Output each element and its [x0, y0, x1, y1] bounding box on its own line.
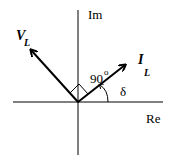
current-phasor-label: I — [137, 52, 144, 67]
real-axis-label: Re — [146, 111, 161, 126]
delta-angle-arc — [100, 85, 108, 102]
imaginary-axis-label: Im — [88, 7, 102, 22]
voltage-phasor-subscript: L — [23, 37, 30, 48]
phasor-diagram: Im Re V L I L 90 o δ — [0, 0, 171, 161]
delta-angle-label: δ — [120, 84, 126, 99]
right-angle-label: 90 — [90, 71, 103, 86]
current-phasor-subscript: L — [143, 67, 150, 78]
right-angle-degree: o — [104, 67, 109, 77]
right-angle-marker — [70, 84, 88, 94]
voltage-phasor-arrow — [31, 50, 78, 102]
